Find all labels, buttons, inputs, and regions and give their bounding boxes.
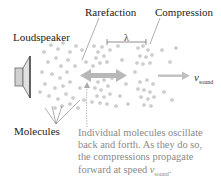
caption-line-3: the compressions propagate xyxy=(78,151,221,163)
caption-v-subscript: sound xyxy=(154,171,168,177)
vsound-label: vsound xyxy=(194,71,213,85)
dotted-pointer xyxy=(87,86,88,127)
caption-line-2: back and forth. As they do so, xyxy=(78,139,221,151)
propagation-arrow-icon xyxy=(158,72,190,81)
rarefaction-label: Rarefaction xyxy=(85,6,136,18)
loudspeaker-icon xyxy=(15,56,30,98)
loudspeaker-label: Loudspeaker xyxy=(13,31,70,43)
caption-line-4: forward at speed vsound. xyxy=(78,164,221,180)
molecules-label: Molecules xyxy=(14,125,60,137)
wavelength-label: λ xyxy=(124,32,129,43)
compression-label: Compression xyxy=(155,6,213,18)
v-subscript: sound xyxy=(199,79,213,85)
caption: Individual molecules oscillate back and … xyxy=(78,127,221,180)
caption-period: . xyxy=(169,164,172,175)
caption-line-4-prefix: forward at speed xyxy=(78,164,150,175)
caption-line-1: Individual molecules oscillate xyxy=(78,127,221,139)
pointer-arrowhead xyxy=(84,82,90,88)
